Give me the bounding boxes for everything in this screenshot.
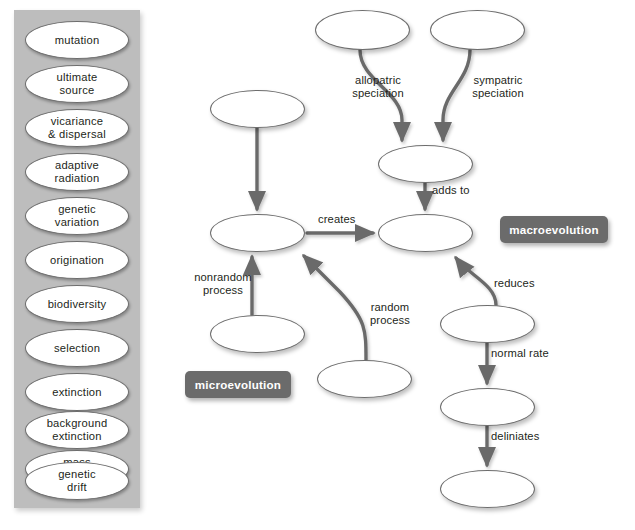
word-bank-item[interactable]: vicariance & dispersal [25,109,129,147]
word-bank-item[interactable]: selection [25,329,129,367]
edge-label: deliniates [491,430,561,443]
concept-node[interactable] [210,214,305,252]
concept-node[interactable] [315,10,410,50]
edge-label: normal rate [491,347,569,360]
word-bank-panel: mutationultimate sourcevicariance & disp… [14,10,140,508]
word-bank-item[interactable]: genetic variation [25,197,129,235]
concept-node[interactable] [378,145,473,183]
word-bank-item[interactable]: biodiversity [25,285,129,323]
edge-label: sympatric speciation [461,74,535,99]
concept-node[interactable] [210,90,305,128]
word-bank-item-label: adaptive radiation [55,159,100,184]
scale-tag: microevolution [185,371,291,398]
word-bank-item-label: genetic variation [55,203,99,228]
edge-label: adds to [432,184,490,197]
scale-tag: macroevolution [500,216,608,243]
word-bank-item[interactable]: background extinction [25,411,129,449]
concept-node[interactable] [440,470,535,508]
edge-label: reduces [494,277,554,290]
word-bank-item-label: genetic drift [58,468,96,493]
concept-node[interactable] [430,10,525,50]
word-bank-item-label: origination [50,254,104,267]
edge-allopatric-speciation [360,50,402,140]
concept-node[interactable] [440,388,535,426]
edge-random-process [304,256,366,360]
edge-label: allopatric speciation [341,74,415,99]
concept-node[interactable] [378,214,473,252]
word-bank-item[interactable]: origination [25,241,129,279]
edge-label: random process [359,301,421,326]
word-bank-item-label: mutation [55,34,100,47]
word-bank-item-label: biodiversity [48,298,107,311]
word-bank-item-label: ultimate source [57,71,98,96]
concept-node[interactable] [210,315,305,353]
concept-node[interactable] [440,305,535,343]
word-bank-item-label: extinction [52,386,102,399]
word-bank-item[interactable]: extinction [25,373,129,411]
word-bank-item-label: selection [54,342,100,355]
word-bank-item[interactable]: ultimate source [25,65,129,103]
edge-label: creates [318,213,372,226]
word-bank-item-label: vicariance & dispersal [48,115,106,140]
word-bank-item[interactable]: genetic drift [25,462,129,500]
word-bank-item[interactable]: adaptive radiation [25,153,129,191]
edge-label: nonrandom process [186,271,260,296]
word-bank-item[interactable]: mutation [25,21,129,59]
edge-reduces [456,258,496,305]
edge-sympatric-speciation [443,50,470,140]
concept-node[interactable] [317,360,412,398]
word-bank-item-label: background extinction [47,417,108,442]
